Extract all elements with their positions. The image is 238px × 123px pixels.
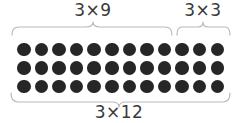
dot [87, 80, 101, 94]
dot-cell [121, 59, 139, 78]
dot-grid [15, 40, 226, 96]
dot [35, 61, 49, 75]
dot-cell [191, 59, 209, 78]
dot-cell [209, 59, 227, 78]
array-diagram: 3×9 3×3 [0, 0, 238, 123]
dot [17, 80, 31, 94]
dot-cell [209, 40, 227, 59]
dot [140, 80, 154, 94]
dot-cell [156, 59, 174, 78]
dot-cell [33, 40, 51, 59]
dot [52, 43, 66, 57]
dot [140, 61, 154, 75]
dot [105, 43, 119, 57]
dot [105, 80, 119, 94]
dot [158, 80, 172, 94]
dot-cell [173, 40, 191, 59]
dot-cell [15, 40, 33, 59]
dot [52, 80, 66, 94]
dot [158, 43, 172, 57]
dot-cell [103, 40, 121, 59]
dot [193, 80, 207, 94]
dot [175, 61, 189, 75]
dot [87, 61, 101, 75]
dot-cell [85, 59, 103, 78]
dot-cell [173, 59, 191, 78]
dot-cell [68, 59, 86, 78]
dot-cell [33, 59, 51, 78]
dot [193, 61, 207, 75]
dot [175, 80, 189, 94]
dot-cell [50, 40, 68, 59]
dot-cell [103, 59, 121, 78]
dot [140, 43, 154, 57]
dot-cell [68, 40, 86, 59]
dot-cell [191, 40, 209, 59]
dot [87, 43, 101, 57]
dot [211, 61, 225, 75]
dot-cell [15, 59, 33, 78]
dot-cell [121, 40, 139, 59]
dot [17, 43, 31, 57]
dot [35, 43, 49, 57]
dot-cell [50, 59, 68, 78]
dot [211, 43, 225, 57]
dot [158, 61, 172, 75]
dot-cell [138, 40, 156, 59]
dot [211, 80, 225, 94]
dot [70, 80, 84, 94]
dot [70, 61, 84, 75]
dot-cell [85, 40, 103, 59]
dot [123, 43, 137, 57]
dot [52, 61, 66, 75]
dot [105, 61, 119, 75]
dot [193, 43, 207, 57]
dot [123, 61, 137, 75]
label-right-group: 3×3 [184, 1, 221, 20]
dot [123, 80, 137, 94]
dot [35, 80, 49, 94]
dot-cell [156, 40, 174, 59]
label-total: 3×12 [95, 103, 144, 122]
dot [175, 43, 189, 57]
dot [17, 61, 31, 75]
dot-cell [138, 59, 156, 78]
dot [70, 43, 84, 57]
brace-top-right [0, 22, 238, 36]
label-left-group: 3×9 [74, 1, 111, 20]
